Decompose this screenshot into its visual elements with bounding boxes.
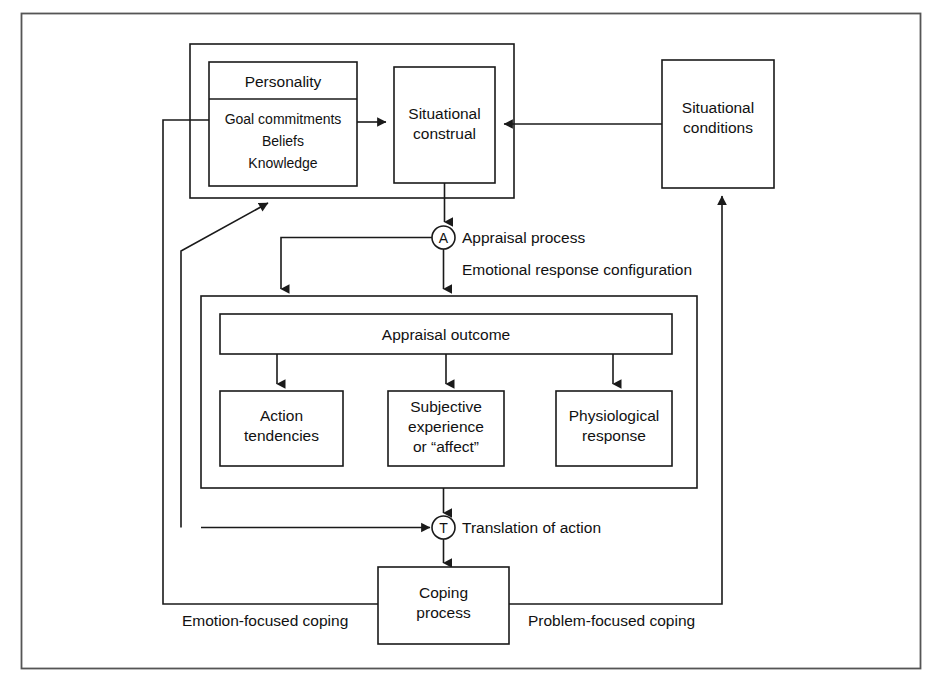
emotion-focused-coping-label: Emotion-focused coping [182, 612, 348, 629]
appraisal-outcome-label: Appraisal outcome [382, 326, 510, 343]
subjective-experience-label-line1: Subjective [410, 398, 482, 415]
situational-construal-label-line2: construal [413, 125, 476, 142]
personality-item-beliefs: Beliefs [262, 133, 304, 149]
diagram-canvas: Personality Goal commitments Beliefs Kno… [0, 0, 932, 687]
coping-process-label-line2: process [416, 604, 471, 621]
action-tendencies-label-line2: tendencies [244, 427, 319, 444]
subjective-experience-label-line2: experience [408, 418, 484, 435]
personality-item-knowledge: Knowledge [248, 155, 317, 171]
appraisal-process-label: Appraisal process [462, 229, 585, 246]
appraisal-process-symbol: A [439, 230, 449, 246]
action-tendencies-label-line1: Action [260, 407, 303, 424]
personality-item-goal-commitments: Goal commitments [225, 111, 342, 127]
translation-of-action-label: Translation of action [462, 519, 601, 536]
coping-process-label-line1: Coping [419, 584, 468, 601]
emotion-coping-diagram: Personality Goal commitments Beliefs Kno… [0, 0, 932, 687]
physiological-response-label-line1: Physiological [569, 407, 659, 424]
translation-of-action-symbol: T [439, 520, 448, 536]
problem-focused-coping-label: Problem-focused coping [528, 612, 695, 629]
subjective-experience-label-line3: or “affect” [413, 438, 479, 455]
situational-conditions-label-line1: Situational [682, 99, 754, 116]
situational-construal-label-line1: Situational [408, 105, 480, 122]
personality-header-label: Personality [245, 73, 322, 90]
situational-conditions-label-line2: conditions [683, 119, 753, 136]
physiological-response-label-line2: response [582, 427, 646, 444]
emotional-response-configuration-label: Emotional response configuration [462, 261, 692, 278]
